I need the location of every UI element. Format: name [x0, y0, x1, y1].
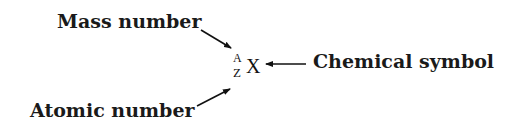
mass-number-label: Mass number [57, 12, 201, 31]
mass-number-arrow [201, 30, 231, 48]
chemical-symbol-label: Chemical symbol [313, 52, 494, 71]
element-symbol: X [246, 56, 260, 76]
mass-number-superscript: A [233, 52, 242, 64]
nuclide-notation-diagram: Mass number Atomic number Chemical symbo… [0, 0, 515, 133]
atomic-number-arrow [197, 89, 230, 106]
atomic-number-label: Atomic number [30, 101, 194, 120]
atomic-number-subscript: Z [233, 66, 241, 79]
